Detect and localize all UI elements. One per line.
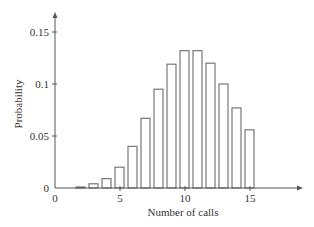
x-tick-label: 5 xyxy=(117,192,123,204)
x-tick-label: 0 xyxy=(52,192,58,204)
bar-12 xyxy=(206,63,215,188)
y-tick-label: 0.15 xyxy=(30,26,50,38)
bar-6 xyxy=(128,146,137,188)
y-ticks-group: 00.050.10.15 xyxy=(30,26,57,194)
x-axis-label: Number of calls xyxy=(148,206,219,218)
y-tick-label: 0 xyxy=(44,182,50,194)
x-tick-label: 10 xyxy=(180,192,192,204)
bar-13 xyxy=(219,84,228,188)
bar-15 xyxy=(245,130,254,188)
bar-3 xyxy=(89,184,98,188)
bar-8 xyxy=(154,89,163,188)
bar-5 xyxy=(115,167,124,188)
bar-7 xyxy=(141,118,150,188)
x-axis-arrow-icon xyxy=(297,186,303,191)
bar-11 xyxy=(193,51,202,188)
x-ticks-group: 051015 xyxy=(52,186,256,204)
y-tick-label: 0.05 xyxy=(30,130,50,142)
y-axis-label: Probability xyxy=(12,79,24,128)
bar-4 xyxy=(102,179,111,188)
bars-group xyxy=(76,51,254,188)
probability-bar-chart: 051015 00.050.10.15 Number of calls Prob… xyxy=(0,0,314,227)
y-tick-label: 0.1 xyxy=(35,78,49,90)
bar-9 xyxy=(167,64,176,188)
bar-14 xyxy=(232,108,241,188)
x-tick-label: 15 xyxy=(245,192,257,204)
bar-10 xyxy=(180,51,189,188)
axes-group xyxy=(53,12,304,191)
y-axis-arrow-icon xyxy=(53,12,58,18)
